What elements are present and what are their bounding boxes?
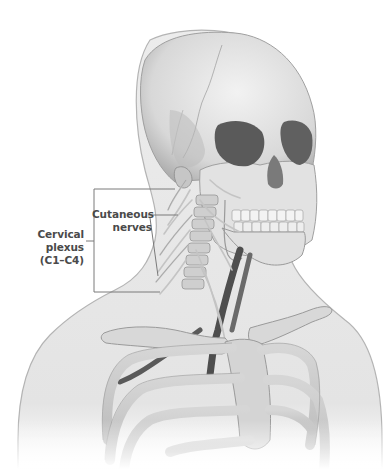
cervical-plexus-label-line3: (C1–C4): [14, 254, 84, 267]
cervical-plexus-label-line2: plexus: [14, 241, 84, 254]
cutaneous-nerves-label-line2: nerves: [92, 221, 152, 234]
cervical-plexus-figure: Cervical plexus (C1–C4) Cutaneous nerves: [0, 0, 387, 469]
cutaneous-nerves-label-line1: Cutaneous: [92, 208, 152, 221]
upper-teeth: [232, 210, 303, 221]
cervical-plexus-label-line1: Cervical: [14, 228, 84, 241]
bottom-fade: [0, 420, 387, 469]
cervical-plexus-label: Cervical plexus (C1–C4): [14, 228, 84, 267]
cutaneous-nerves-label: Cutaneous nerves: [92, 208, 152, 234]
lower-teeth: [234, 222, 304, 232]
